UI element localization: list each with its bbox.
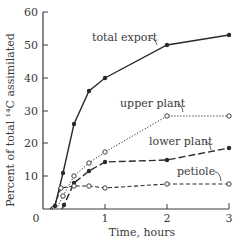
label-total-export: total export — [92, 31, 158, 44]
label-petiole: petiole — [177, 165, 215, 178]
y-tick-20: 20 — [24, 137, 38, 150]
x-tick-0: 0 — [33, 212, 40, 225]
y-tick-40: 40 — [24, 72, 38, 85]
y-tick-30: 30 — [24, 105, 38, 118]
label-lower-plant: lower plant — [149, 135, 213, 148]
y-tick-50: 50 — [24, 39, 38, 52]
x-tick-3: 3 — [226, 212, 233, 225]
series-total-export — [53, 33, 231, 208]
x-tick-2: 2 — [164, 212, 171, 225]
x-ticks — [105, 203, 229, 209]
y-ticks — [43, 45, 48, 176]
y-axis-label: Percent of total ¹⁴C assimilated — [4, 33, 17, 207]
chart-canvas: 60 50 40 30 20 10 0 1 2 3 Time, hours Pe… — [0, 0, 241, 244]
label-upper-plant: upper plant — [120, 97, 186, 110]
x-axis-label: Time, hours — [109, 226, 176, 239]
y-tick-60: 60 — [24, 6, 38, 19]
x-tick-1: 1 — [102, 212, 109, 225]
series-petiole — [50, 182, 231, 209]
y-tick-10: 10 — [24, 170, 38, 183]
